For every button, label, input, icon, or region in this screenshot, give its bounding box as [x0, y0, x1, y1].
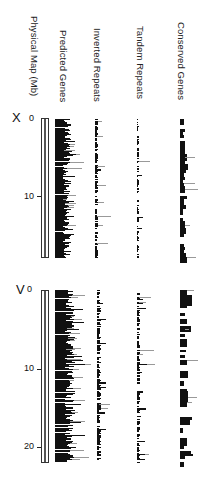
density-bar-tail: [98, 202, 104, 203]
density-bar-tail: [140, 350, 154, 351]
density-bar: [95, 219, 98, 220]
density-bar: [95, 196, 97, 197]
density-bar-tail: [188, 397, 197, 398]
density-bar: [97, 326, 101, 327]
density-bar: [97, 303, 103, 304]
density-bar-tail: [74, 400, 85, 401]
density-bar: [180, 209, 183, 215]
density-bar: [55, 423, 70, 424]
chromosome-x-tick-10: 10: [12, 191, 34, 201]
density-bar: [97, 306, 100, 307]
density-bar: [55, 193, 69, 194]
density-bar: [95, 192, 97, 193]
density-bar: [180, 350, 186, 353]
chromosome-x-tandem-repeats-track: [137, 119, 167, 258]
chromosome-v-predicted-genes-track: [55, 290, 95, 462]
density-bar-tail: [70, 443, 77, 444]
density-bar: [137, 347, 140, 348]
density-bar-tail: [70, 144, 75, 145]
density-bar: [55, 426, 68, 427]
tandem-repeats-label: Tandem Repeats: [135, 26, 146, 99]
chromosome-x-predicted-genes-track: [55, 119, 85, 258]
density-bar: [97, 412, 105, 413]
density-bar: [95, 228, 97, 229]
density-bar: [95, 226, 98, 227]
density-bar: [137, 176, 138, 177]
density-bar-tail: [139, 354, 144, 355]
chromosome-v-inverted-repeats-track: [97, 290, 127, 462]
density-bar: [180, 462, 184, 467]
density-bar: [137, 129, 138, 130]
density-bar: [180, 376, 188, 379]
density-bar: [137, 226, 138, 227]
density-bar: [55, 126, 68, 127]
density-bar: [55, 230, 65, 231]
density-bar: [97, 294, 99, 295]
density-bar: [137, 185, 138, 186]
density-bar: [95, 139, 97, 140]
chromosome-v-conserved-genes-track: [180, 290, 220, 462]
density-bar-tail: [72, 459, 79, 460]
density-bar-tail: [145, 454, 149, 455]
density-bar-tail: [98, 225, 103, 226]
density-bar-tail: [187, 290, 194, 291]
density-bar: [137, 459, 145, 460]
density-bar: [180, 321, 187, 324]
density-bar: [97, 352, 100, 353]
density-bar-tail: [73, 388, 81, 389]
density-bar-tail: [97, 136, 103, 137]
density-bar: [137, 315, 140, 316]
density-bar: [180, 402, 187, 407]
density-bar-tail: [185, 157, 194, 158]
density-bar: [137, 412, 140, 413]
density-bar: [95, 119, 98, 120]
density-bar: [180, 135, 184, 138]
density-bar: [137, 205, 139, 206]
density-bar: [95, 257, 98, 258]
density-bar: [180, 334, 185, 337]
density-bar: [137, 233, 138, 234]
density-bar: [97, 320, 101, 321]
density-bar: [137, 416, 141, 417]
density-bar-tail: [71, 297, 79, 298]
density-bar-tail: [70, 340, 75, 341]
density-bar: [137, 158, 139, 159]
density-bar: [180, 384, 184, 387]
density-bar-tail: [97, 243, 108, 244]
density-bar: [95, 173, 98, 174]
density-bar: [97, 426, 100, 427]
density-bar: [137, 250, 138, 251]
predicted-genes-label: Predicted Genes: [58, 30, 69, 102]
density-bar: [95, 150, 97, 151]
density-bar: [55, 165, 63, 166]
density-bar: [137, 419, 140, 420]
density-bar: [137, 306, 139, 307]
density-bar-tail: [85, 364, 91, 365]
density-bar-tail: [147, 364, 155, 365]
density-bar: [95, 237, 98, 238]
density-bar: [97, 454, 101, 455]
density-bar: [55, 160, 69, 161]
density-bar: [97, 362, 101, 363]
density-bar-tail: [70, 450, 85, 451]
density-bar: [95, 179, 98, 180]
density-bar: [180, 456, 185, 459]
chromosome-v-physical-map: [41, 290, 49, 463]
density-bar-tail: [76, 154, 80, 155]
density-bar: [97, 444, 101, 445]
density-bar: [55, 431, 66, 432]
density-bar: [137, 424, 139, 425]
density-bar-tail: [101, 408, 109, 409]
density-bar-tail: [74, 354, 77, 355]
density-bar-tail: [70, 162, 85, 163]
density-bar: [137, 430, 139, 431]
density-bar: [137, 403, 139, 404]
density-bar: [55, 448, 71, 449]
density-bar: [97, 396, 100, 397]
conserved-genes-label: Conserved Genes: [176, 22, 187, 100]
density-bar: [137, 369, 140, 370]
density-bar-tail: [185, 189, 197, 190]
density-bar: [137, 325, 139, 326]
density-bar: [97, 310, 101, 311]
density-bar: [137, 376, 140, 377]
